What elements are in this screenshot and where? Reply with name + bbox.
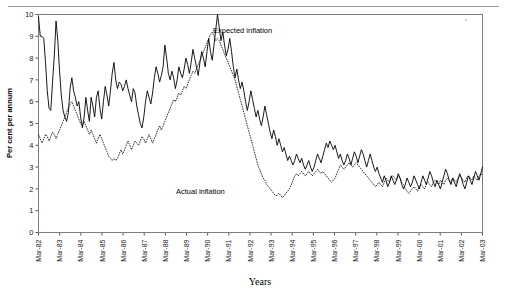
y-tick-label: 3: [29, 163, 33, 172]
x-tick-label: Mar-91: [225, 239, 232, 261]
y-tick-label: 0: [29, 228, 33, 237]
y-tick-label: 9: [29, 32, 33, 41]
x-tick-label: Mar-99: [395, 239, 402, 261]
y-axis-title: Per cent per annum: [5, 88, 14, 158]
x-tick-label: Mar-02: [458, 239, 465, 261]
y-axis-ticks: 012345678910: [25, 10, 38, 237]
y-tick-label: 5: [29, 119, 33, 128]
y-tick-label: 6: [29, 97, 33, 106]
y-tick-label: 4: [29, 141, 33, 150]
series-line-expected-inflation: [39, 15, 483, 189]
x-tick-label: Mar-92: [247, 239, 254, 261]
x-tick-label: Mar-82: [35, 239, 42, 261]
y-tick-label: 1: [29, 206, 33, 215]
x-axis-title: Years: [249, 276, 271, 287]
x-tick-label: Mar-90: [204, 239, 211, 261]
y-tick-label: 8: [29, 54, 33, 63]
series-label-expected-inflation: Expected inflation: [213, 26, 272, 35]
x-tick-label: Mar-84: [77, 239, 84, 261]
x-tick-label: Mar-01: [437, 239, 444, 261]
series-line-actual-inflation: [39, 32, 483, 198]
chart-svg: 012345678910 Mar-82Mar-83Mar-84Mar-85Mar…: [0, 0, 507, 297]
y-tick-label: 2: [29, 185, 33, 194]
x-tick-label: Mar-86: [120, 239, 127, 261]
x-tick-label: Mar-85: [99, 239, 106, 261]
y-tick-label: 10: [25, 10, 33, 19]
x-tick-label: Mar-95: [310, 239, 317, 261]
x-tick-label: Mar-83: [56, 239, 63, 261]
x-tick-label: Mar-87: [141, 239, 148, 261]
x-tick-label: Mar-03: [479, 239, 486, 261]
page-speck: [465, 19, 467, 21]
x-tick-label: Mar-94: [289, 239, 296, 261]
inflation-chart: 012345678910 Mar-82Mar-83Mar-84Mar-85Mar…: [0, 0, 507, 297]
x-tick-label: Mar-96: [331, 239, 338, 261]
x-tick-label: Mar-93: [268, 239, 275, 261]
x-tick-label: Mar-98: [373, 239, 380, 261]
x-tick-label: Mar-97: [352, 239, 359, 261]
y-tick-label: 7: [29, 76, 33, 85]
x-tick-label: Mar-89: [183, 239, 190, 261]
series-label-actual-inflation: Actual inflation: [176, 187, 225, 196]
x-tick-label: Mar-00: [416, 239, 423, 261]
x-axis-ticks: Mar-82Mar-83Mar-84Mar-85Mar-86Mar-87Mar-…: [35, 233, 486, 262]
x-tick-label: Mar-88: [162, 239, 169, 261]
